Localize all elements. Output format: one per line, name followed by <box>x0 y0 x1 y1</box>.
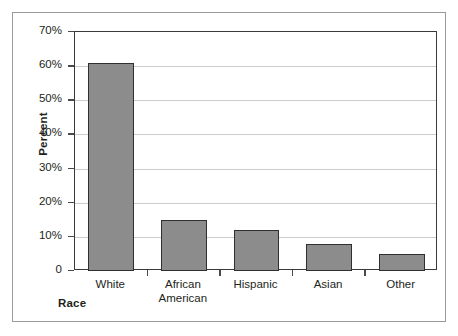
x-axis-title: Race <box>58 297 86 309</box>
y-tick-label: 60% <box>0 58 62 70</box>
bar-chart-figure: Percent Race 010%20%30%40%50%60%70% Whit… <box>0 0 458 336</box>
x-tick-label-line: White <box>74 278 147 292</box>
bar <box>161 220 207 271</box>
bar <box>379 254 425 271</box>
y-tick-label: 50% <box>0 92 62 104</box>
x-tick-label-line: Hispanic <box>219 278 292 292</box>
x-tick-label: Asian <box>292 278 365 292</box>
y-tick-label: 20% <box>0 195 62 207</box>
bar <box>306 244 352 271</box>
x-tick-label: Hispanic <box>219 278 292 292</box>
y-tick-label: 40% <box>0 126 62 138</box>
x-tick-label-line: Other <box>364 278 437 292</box>
x-tick-label: Other <box>364 278 437 292</box>
x-tick-label-line: American <box>147 292 220 306</box>
y-tick-label: 0 <box>0 263 62 275</box>
y-tick-label: 70% <box>0 24 62 36</box>
bar <box>234 230 280 271</box>
x-tick-label: White <box>74 278 147 292</box>
x-tick-label-line: Asian <box>292 278 365 292</box>
x-tick-mark <box>292 270 293 276</box>
x-tick-mark <box>147 270 148 276</box>
x-tick-label: AfricanAmerican <box>147 278 220 305</box>
x-tick-mark <box>364 270 365 276</box>
y-tick-label: 30% <box>0 161 62 173</box>
y-tick-label: 10% <box>0 229 62 241</box>
x-tick-label-line: African <box>147 278 220 292</box>
x-tick-mark <box>219 270 220 276</box>
plot-area <box>74 31 437 270</box>
bar <box>88 63 134 271</box>
y-tick-mark <box>68 270 74 271</box>
